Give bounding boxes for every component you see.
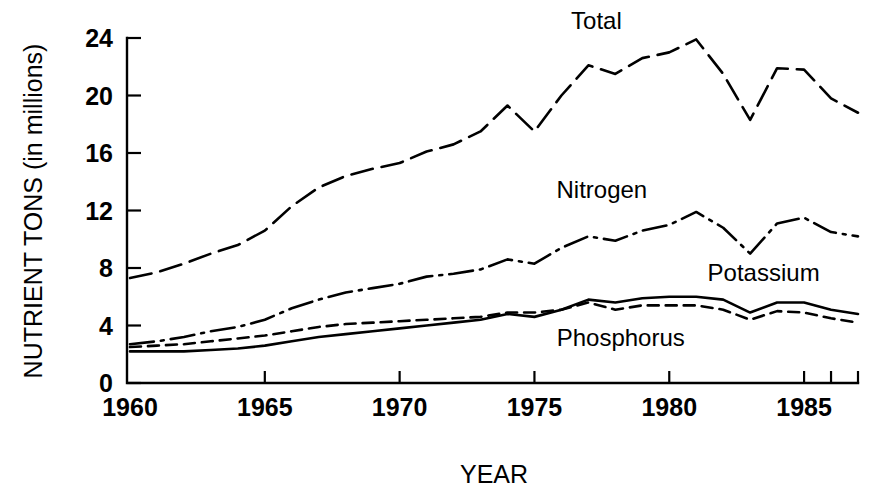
y-tick-label-12: 12 — [85, 197, 113, 225]
series-label-nitrogen: Nitrogen — [556, 176, 647, 203]
y-tick-label-24: 24 — [85, 24, 113, 52]
axis-spines — [127, 38, 858, 383]
x-tick-label-1985: 1985 — [776, 393, 832, 421]
chart-series-lines — [130, 39, 858, 351]
y-axis-title: NUTRIENT TONS (in millions) — [19, 44, 47, 379]
x-tick-label-1965: 1965 — [237, 393, 293, 421]
series-label-total: Total — [571, 7, 622, 34]
x-axis-tick-labels: 196019651970197519801985 — [102, 393, 832, 421]
series-line-total — [130, 39, 858, 278]
series-line-potassium — [130, 297, 858, 352]
y-tick-label-20: 20 — [85, 82, 113, 110]
chart-tick-marks — [127, 38, 858, 383]
y-tick-label-16: 16 — [85, 139, 113, 167]
x-tick-label-1970: 1970 — [372, 393, 428, 421]
series-label-phosphorus: Phosphorus — [557, 324, 685, 351]
chart-axes — [127, 38, 858, 383]
x-tick-label-1980: 1980 — [641, 393, 697, 421]
y-axis-tick-labels: 04812162024 — [85, 24, 113, 397]
x-tick-label-1960: 1960 — [102, 393, 158, 421]
series-line-phosphorus — [130, 303, 858, 348]
y-tick-label-4: 4 — [99, 312, 113, 340]
x-tick-label-1975: 1975 — [507, 393, 563, 421]
y-tick-label-8: 8 — [99, 254, 113, 282]
nutrient-tons-line-chart: 04812162024 196019651970197519801985 Tot… — [0, 0, 887, 500]
series-label-potassium: Potassium — [708, 259, 820, 286]
chart-container: 04812162024 196019651970197519801985 Tot… — [0, 0, 887, 500]
x-axis-title: YEAR — [460, 460, 528, 488]
